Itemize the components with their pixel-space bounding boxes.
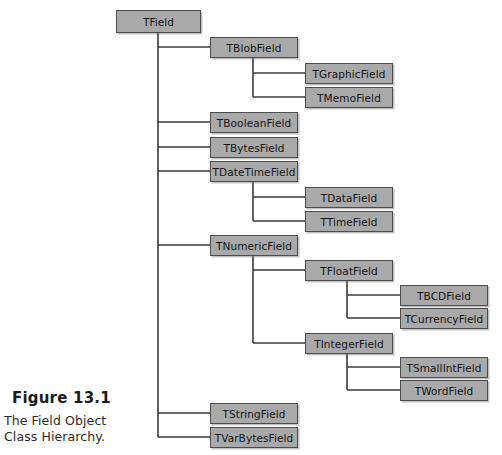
node-label: TCurrencyField [405,313,484,325]
figure-number: Figure 13.1 [12,390,128,407]
figure-caption-line1: The Field Object [4,413,128,430]
node-tmemofield: TMemoField [305,87,393,108]
node-label: TDateTimeField [213,166,296,178]
node-label: TTimeField [320,216,377,228]
node-label: TGraphicField [313,68,386,80]
figure-caption: Figure 13.1 The Field Object Class Hiera… [4,390,128,446]
node-label: TBooleanField [217,117,291,129]
node-label: TStringField [222,408,285,420]
node-tbcdfield: TBCDField [400,285,488,306]
node-label: TField [143,16,174,28]
node-label: TFloatField [320,265,378,277]
node-label: TBlobField [227,42,282,54]
node-tbytesfield: TBytesField [210,137,298,158]
node-tsmallintfield: TSmallIntField [400,357,488,378]
node-tfloatfield: TFloatField [305,260,393,281]
node-ttimefield: TTimeField [305,211,393,232]
node-tintegerfield: TIntegerField [305,333,393,354]
node-label: TSmallIntField [406,362,481,374]
node-label: TBytesField [223,142,284,154]
node-label: TWordField [415,385,474,397]
node-tdatetimefield: TDateTimeField [210,161,298,182]
node-label: TDataField [321,192,378,204]
node-tnumericfield: TNumericField [210,235,298,256]
node-tfield: TField [116,10,201,33]
node-tvarbytesfield: TVarBytesField [210,427,298,448]
node-label: TVarBytesField [215,432,294,444]
node-label: TIntegerField [314,338,384,350]
node-tblobfield: TBlobField [210,37,298,58]
node-twordfield: TWordField [400,380,488,401]
node-label: TNumericField [216,240,292,252]
class-hierarchy-figure: TField TBlobField TGraphicField TMemoFie… [0,0,502,455]
node-label: TMemoField [317,92,381,104]
node-tstringfield: TStringField [210,403,298,424]
node-tgraphicfield: TGraphicField [305,63,393,84]
node-tdatafield: TDataField [305,187,393,208]
node-tbooleanfield: TBooleanField [210,112,298,133]
node-label: TBCDField [417,290,471,302]
figure-caption-line2: Class Hierarchy. [4,429,128,446]
node-tcurrencyfield: TCurrencyField [400,308,488,329]
